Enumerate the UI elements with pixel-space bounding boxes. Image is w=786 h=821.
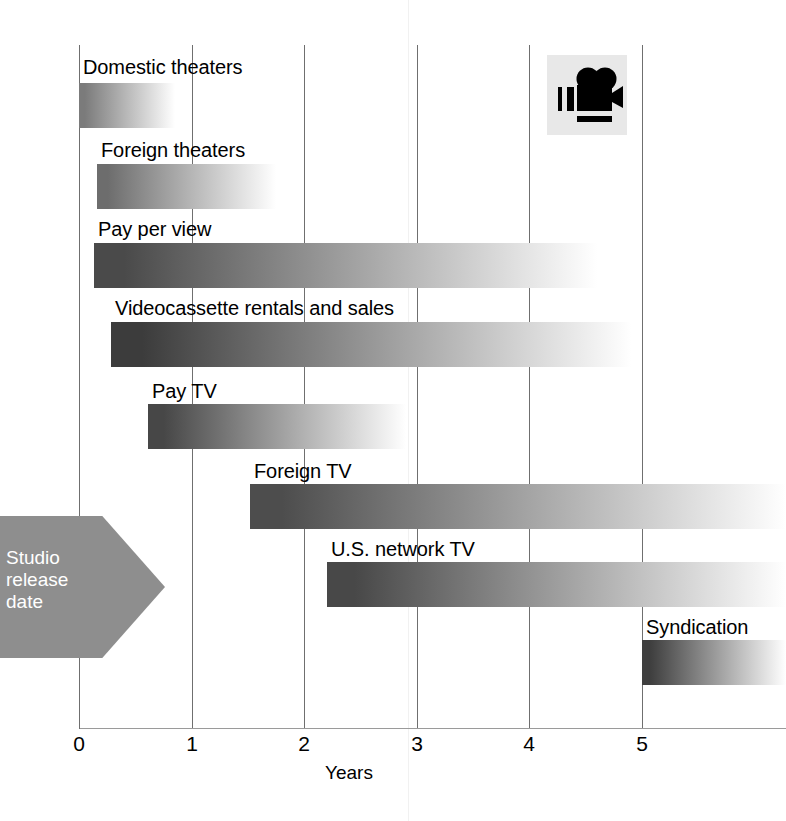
release-line-1: Studio	[6, 547, 102, 569]
gridline-4	[529, 45, 530, 728]
x-axis-title-text: Years	[325, 762, 373, 783]
bar-2	[94, 243, 597, 288]
bar-7	[642, 640, 786, 685]
bar-6	[327, 562, 786, 607]
bar-5	[250, 484, 786, 529]
plot-area: 012345Domestic theatersForeign theatersP…	[0, 0, 786, 821]
bar-label-5: Foreign TV	[254, 461, 352, 481]
bar-0	[79, 83, 175, 128]
gridline-3	[417, 45, 418, 728]
studio-release-date-callout: Studio release date	[0, 516, 165, 658]
bar-label-3: Videocassette rentals and sales	[115, 298, 394, 318]
bar-label-4: Pay TV	[152, 381, 217, 401]
x-axis-title: Years	[0, 763, 786, 782]
bar-4	[148, 404, 406, 449]
bar-label-1: Foreign theaters	[101, 140, 245, 160]
x-tick-label-3: 3	[411, 733, 422, 754]
x-tick-label-5: 5	[636, 733, 647, 754]
x-tick-label-1: 1	[186, 733, 197, 754]
studio-release-date-label: Studio release date	[6, 547, 102, 613]
x-tick-label-2: 2	[298, 733, 309, 754]
bar-label-2: Pay per view	[98, 219, 211, 239]
bar-label-0: Domestic theaters	[83, 57, 242, 77]
x-axis-line	[79, 728, 786, 729]
gridline-2	[304, 45, 305, 728]
bar-3	[111, 322, 631, 367]
gridline-5	[642, 45, 643, 728]
release-line-3: date	[6, 591, 102, 613]
bar-label-6: U.S. network TV	[331, 539, 475, 559]
movie-camera-icon	[547, 55, 627, 135]
x-tick-label-0: 0	[73, 733, 84, 754]
chart-container: 012345Domestic theatersForeign theatersP…	[0, 0, 786, 821]
x-tick-label-4: 4	[523, 733, 534, 754]
x-axis-origin-tick	[79, 719, 80, 729]
bar-1	[97, 164, 276, 209]
bar-label-7: Syndication	[646, 617, 748, 637]
release-line-2: release	[6, 569, 102, 591]
